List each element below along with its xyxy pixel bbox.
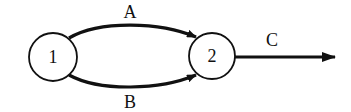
edge-a-label: A — [124, 2, 137, 22]
flow-diagram: 1 2 A B C — [0, 0, 351, 112]
edge-c-label: C — [266, 30, 278, 50]
edge-b — [69, 75, 196, 87]
edge-a — [69, 25, 196, 38]
edge-b-label: B — [124, 92, 136, 112]
node-2-label: 2 — [208, 46, 217, 66]
node-1-label: 1 — [49, 47, 58, 67]
